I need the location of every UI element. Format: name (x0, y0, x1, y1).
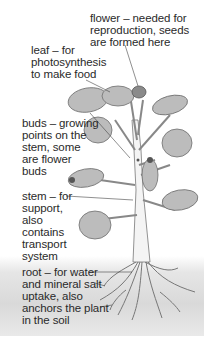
roots (100, 262, 195, 320)
flower (132, 86, 146, 98)
label-buds: buds – growing points on the stem, some … (22, 117, 99, 177)
label-flower: flower – needed for reproduction, seeds … (90, 12, 189, 48)
label-root: root – for water and mineral salt uptake… (22, 266, 109, 326)
label-leaf: leaf – for photosynthesis to make food (31, 44, 106, 80)
label-stem: stem – for support, also contains transp… (22, 190, 72, 262)
